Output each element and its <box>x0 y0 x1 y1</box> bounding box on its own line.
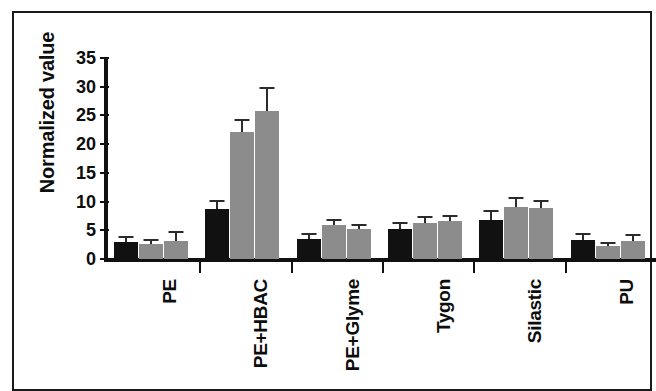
bar <box>413 214 437 259</box>
error-bar <box>582 235 584 240</box>
error-bar-cap <box>301 233 316 235</box>
y-axis-tick-label: 35 <box>54 49 96 67</box>
x-axis-category-label: PE+Glyme <box>342 279 364 371</box>
bar <box>596 240 620 259</box>
bar-rect <box>438 221 462 259</box>
bar-group <box>388 58 462 259</box>
bar-rect <box>114 242 138 259</box>
bar <box>255 85 279 259</box>
y-axis-tick-labels: 05101520253035 <box>54 47 96 249</box>
error-bar <box>449 217 451 221</box>
bar <box>139 237 163 259</box>
bar <box>388 220 412 259</box>
x-axis-category-label: PU <box>616 279 638 305</box>
figure-border: Normalized value 05101520253035 PEPE+HBA… <box>12 11 652 391</box>
error-bar <box>607 244 609 246</box>
error-bar <box>175 233 177 241</box>
x-axis-category-label: Tygon <box>433 279 455 333</box>
error-bar <box>540 202 542 208</box>
error-bar <box>358 226 360 229</box>
bar <box>347 222 371 259</box>
x-axis-category-label: PE <box>159 279 181 304</box>
y-axis-tick-label: 25 <box>54 106 96 124</box>
x-axis-tick-mark <box>291 262 293 273</box>
bar-rect <box>529 208 553 259</box>
error-bar-cap <box>575 233 590 235</box>
error-bar-cap <box>235 119 250 121</box>
bar-rect <box>504 207 528 259</box>
bar-rect <box>347 229 371 259</box>
bar-rect <box>571 240 595 259</box>
bar <box>322 217 346 259</box>
error-bar-cap <box>509 197 524 199</box>
x-axis-category-label: Silastic <box>524 279 546 343</box>
plot-area <box>108 58 656 259</box>
error-bar-cap <box>326 219 341 221</box>
bar <box>205 198 229 259</box>
bar-group <box>114 58 188 259</box>
bar <box>297 231 321 259</box>
bar-rect <box>255 111 279 259</box>
bar-rect <box>297 239 321 259</box>
y-axis-tick-label: 10 <box>54 193 96 211</box>
error-bar <box>490 212 492 220</box>
bar-rect <box>164 241 188 259</box>
error-bar-cap <box>484 210 499 212</box>
bar <box>479 208 503 259</box>
error-bar-cap <box>534 200 549 202</box>
x-axis-tick-mark <box>199 262 201 273</box>
bar <box>621 232 645 259</box>
bar-group <box>479 58 553 259</box>
error-bar-cap <box>119 236 134 238</box>
bar <box>571 231 595 259</box>
bar-rect <box>230 132 254 259</box>
x-axis-category-label: PE+HBAC <box>250 279 272 368</box>
bar-rect <box>413 223 437 259</box>
x-axis-tick-mark <box>565 262 567 273</box>
error-bar <box>241 121 243 132</box>
error-bar-cap <box>210 200 225 202</box>
error-bar-cap <box>144 239 159 241</box>
bar-group <box>205 58 279 259</box>
error-bar <box>150 241 152 244</box>
x-axis-tick-mark <box>382 262 384 273</box>
y-axis-tick-label: 30 <box>54 78 96 96</box>
bar-group <box>297 58 371 259</box>
error-bar <box>216 202 218 209</box>
error-bar-cap <box>418 216 433 218</box>
x-axis-tick-mark <box>473 262 475 273</box>
y-axis-tick-label: 0 <box>54 250 96 268</box>
error-bar <box>308 235 310 239</box>
error-bar <box>632 236 634 241</box>
error-bar-cap <box>351 224 366 226</box>
bar-rect <box>322 225 346 259</box>
bar <box>164 229 188 259</box>
bar-rect <box>388 229 412 259</box>
error-bar <box>399 224 401 229</box>
error-bar <box>125 238 127 243</box>
y-axis-tick-label: 5 <box>54 221 96 239</box>
error-bar-cap <box>169 231 184 233</box>
bar-rect <box>596 246 620 259</box>
bar <box>438 213 462 259</box>
error-bar <box>424 218 426 223</box>
y-axis-tick-label: 20 <box>54 135 96 153</box>
bar-rect <box>205 209 229 259</box>
error-bar-cap <box>600 242 615 244</box>
bar-rect <box>139 244 163 259</box>
error-bar <box>515 199 517 208</box>
error-bar <box>266 89 268 111</box>
error-bar-cap <box>393 222 408 224</box>
error-bar-cap <box>260 87 275 89</box>
error-bar-cap <box>443 215 458 217</box>
bar <box>114 234 138 259</box>
bar-rect <box>621 241 645 259</box>
error-bar-cap <box>625 234 640 236</box>
bar <box>504 195 528 259</box>
y-axis-tick-label: 15 <box>54 164 96 182</box>
bar <box>529 198 553 259</box>
bar <box>230 117 254 259</box>
error-bar <box>333 221 335 224</box>
bar-rect <box>479 220 503 259</box>
